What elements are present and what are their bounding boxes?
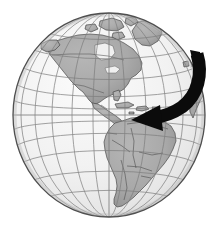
globe-illustration	[0, 0, 220, 231]
globe-figure: Globe showing the Americas with a curved…	[0, 0, 220, 231]
arrow-tail-taper	[190, 50, 203, 64]
jamaica-shape	[129, 112, 134, 114]
